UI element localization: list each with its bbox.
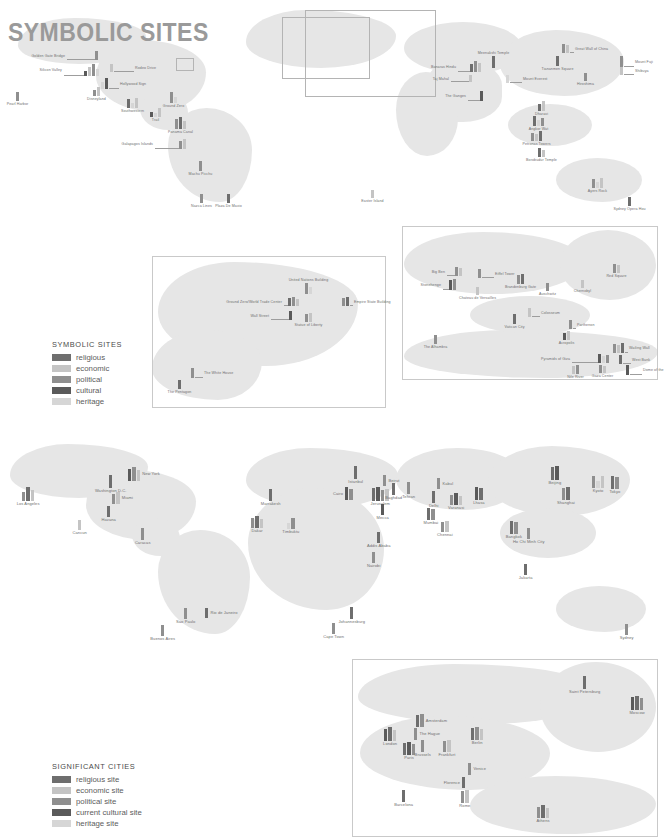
- site-marker[interactable]: Nairobi: [372, 552, 375, 563]
- site-marker[interactable]: Nazca Lines: [200, 194, 203, 203]
- site-marker[interactable]: Shanghai: [562, 487, 570, 500]
- site-marker[interactable]: Plaza De Mavio: [227, 194, 230, 203]
- site-marker[interactable]: Angkor Wat: [533, 116, 544, 126]
- legend-item[interactable]: religious: [52, 352, 122, 362]
- site-marker[interactable]: New York: [128, 467, 140, 481]
- legend-item[interactable]: economic: [52, 363, 122, 373]
- site-marker[interactable]: The Hague: [414, 728, 417, 740]
- site-marker[interactable]: Amsterdam: [416, 714, 424, 727]
- site-marker[interactable]: United Nations Building: [305, 283, 312, 294]
- site-marker[interactable]: Havana: [107, 506, 110, 517]
- site-marker[interactable]: Buenos Aires: [161, 625, 164, 636]
- site-marker[interactable]: Mumbai: [427, 508, 435, 520]
- site-marker[interactable]: Baghdad: [392, 483, 395, 495]
- site-marker[interactable]: Colosseum: [528, 308, 531, 317]
- legend-item[interactable]: economic site: [52, 785, 142, 795]
- site-marker[interactable]: Cairo: [345, 487, 353, 500]
- site-marker[interactable]: Banaras Hindu: [470, 61, 481, 72]
- site-marker[interactable]: Chennai: [441, 521, 449, 532]
- site-marker[interactable]: Acropolis: [563, 331, 570, 340]
- site-marker[interactable]: Timbuktu: [287, 518, 295, 529]
- site-marker[interactable]: Red Square: [613, 264, 620, 273]
- site-marker[interactable]: Ground Zero/World Trade Center: [288, 297, 299, 306]
- site-marker[interactable]: Sao Paulo: [184, 608, 187, 619]
- legend-item[interactable]: current cultural site: [52, 807, 142, 817]
- legend-item[interactable]: heritage site: [52, 818, 142, 828]
- site-marker[interactable]: Gaza Center: [599, 365, 606, 373]
- site-marker[interactable]: The Pentagon: [178, 380, 181, 389]
- site-marker[interactable]: Parthenon: [569, 320, 572, 329]
- site-marker[interactable]: Addis Ababa: [377, 532, 380, 543]
- site-marker[interactable]: Barcelona: [402, 790, 405, 802]
- legend-item[interactable]: heritage: [52, 396, 122, 406]
- site-marker[interactable]: Brussels: [421, 740, 424, 752]
- site-marker[interactable]: Machu Picchu: [199, 161, 202, 171]
- legend-item[interactable]: political site: [52, 796, 142, 806]
- site-marker[interactable]: Bangkok: [510, 521, 518, 534]
- site-marker[interactable]: Brandenburg Gate: [517, 274, 524, 284]
- site-marker[interactable]: Moscow: [631, 696, 643, 710]
- site-marker[interactable]: Wall Street: [289, 311, 292, 320]
- site-marker[interactable]: Mecca: [381, 504, 384, 515]
- site-marker[interactable]: Ayers Rock: [592, 178, 603, 188]
- site-marker[interactable]: Empire State Building: [342, 297, 349, 306]
- site-marker[interactable]: Istanbul: [354, 466, 357, 479]
- site-marker[interactable]: Petronas Towers: [531, 131, 542, 141]
- site-marker[interactable]: Rodeo Drive: [110, 64, 113, 72]
- site-marker[interactable]: London: [384, 727, 396, 741]
- site-marker[interactable]: Los Angeles: [22, 487, 34, 501]
- site-marker[interactable]: Tehran: [407, 482, 410, 494]
- legend-item[interactable]: religious site: [52, 774, 142, 784]
- site-marker[interactable]: Mount Fuji: [620, 56, 623, 67]
- site-marker[interactable]: Rome: [461, 790, 469, 803]
- site-marker[interactable]: Hollywood Sign: [101, 78, 108, 89]
- site-marker[interactable]: Meenakshi Temple: [492, 56, 495, 68]
- site-marker[interactable]: Southwestern: [127, 98, 138, 108]
- site-marker[interactable]: Panama Canal: [175, 117, 186, 129]
- site-marker[interactable]: Disneyland: [93, 87, 100, 96]
- site-marker[interactable]: Big Ben: [455, 267, 462, 276]
- site-marker[interactable]: Dakar: [251, 516, 263, 528]
- site-marker[interactable]: Jakarta: [524, 564, 527, 575]
- site-marker[interactable]: Ground Zero: [170, 92, 177, 103]
- site-marker[interactable]: Florence: [462, 777, 465, 788]
- site-marker[interactable]: Berlin: [471, 727, 483, 740]
- site-marker[interactable]: Lhasa: [475, 487, 483, 500]
- site-marker[interactable]: Nile River: [572, 365, 579, 374]
- site-marker[interactable]: Cape Town: [332, 623, 335, 634]
- site-marker[interactable]: Great Wall of China: [562, 44, 569, 53]
- site-marker[interactable]: Eiffel Tower: [478, 269, 481, 278]
- site-marker[interactable]: Delhi: [432, 491, 435, 503]
- site-marker[interactable]: Hiroshima: [584, 73, 587, 81]
- site-marker[interactable]: Caracas: [141, 528, 144, 540]
- site-marker[interactable]: Easter Island: [371, 190, 374, 198]
- site-marker[interactable]: Beijing: [551, 466, 559, 480]
- site-marker[interactable]: Chateau de Versailles: [476, 287, 479, 295]
- site-marker[interactable]: Kabul: [437, 478, 440, 489]
- site-marker[interactable]: Borobudur Temple: [538, 148, 545, 157]
- site-marker[interactable]: Venice: [468, 763, 471, 775]
- site-marker[interactable]: Beirut: [383, 475, 386, 486]
- site-marker[interactable]: Auschwitz: [546, 283, 549, 291]
- site-marker[interactable]: Marrakesh: [269, 489, 272, 501]
- site-marker[interactable]: Shibuya: [620, 67, 623, 75]
- site-marker[interactable]: Taj Mahal: [469, 75, 472, 82]
- site-marker[interactable]: Silicon Valley: [84, 64, 99, 76]
- site-marker[interactable]: The White House: [191, 368, 194, 378]
- site-marker[interactable]: Pearl Harbor: [16, 92, 19, 101]
- site-marker[interactable]: Saint Petersburg: [583, 676, 586, 689]
- site-marker[interactable]: Trail: [150, 108, 161, 117]
- site-marker[interactable]: The Alhambra: [434, 335, 437, 344]
- site-marker[interactable]: Kyoto: [592, 476, 604, 488]
- site-marker[interactable]: West Bank: [619, 355, 622, 364]
- site-marker[interactable]: Sydney Opera Hou: [628, 197, 631, 206]
- legend-item[interactable]: cultural: [52, 385, 122, 395]
- site-marker[interactable]: Tiananmen Square: [556, 56, 559, 66]
- site-marker[interactable]: Sydney: [625, 624, 628, 635]
- site-marker[interactable]: Paris: [403, 742, 415, 755]
- site-marker[interactable]: Dharavi: [538, 101, 545, 111]
- site-marker[interactable]: Johannesburg: [350, 607, 353, 619]
- site-marker[interactable]: Vatican City: [513, 314, 516, 324]
- site-marker[interactable]: Golden Gate Bridge: [95, 51, 98, 60]
- site-marker[interactable]: Statue of Liberty: [305, 313, 312, 322]
